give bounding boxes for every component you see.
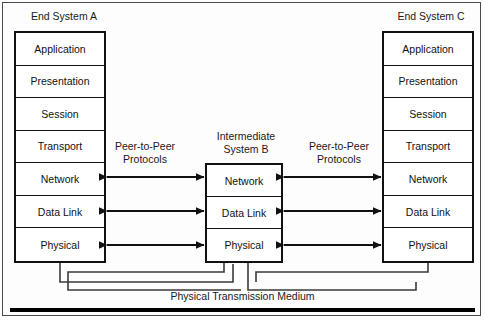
layer-label: Presentation bbox=[31, 75, 90, 87]
layer-label: Data Link bbox=[38, 206, 82, 218]
peer-protocols-left-line2: Protocols bbox=[103, 153, 187, 166]
end-system-a-stack: ApplicationPresentationSessionTransportN… bbox=[14, 31, 106, 263]
peer-protocols-right-line1: Peer-to-Peer bbox=[297, 140, 381, 153]
system-c-layer-application: Application bbox=[384, 33, 472, 66]
intermediate-layer-data-link: Data Link bbox=[207, 197, 281, 229]
system-c-layer-network: Network bbox=[384, 163, 472, 196]
intermediate-system-b-stack: NetworkData LinkPhysical bbox=[205, 163, 283, 263]
system-a-layer-data-link: Data Link bbox=[16, 196, 104, 229]
system-a-layer-physical: Physical bbox=[16, 228, 104, 261]
system-c-layer-data-link: Data Link bbox=[384, 196, 472, 229]
physical-transmission-medium-bus bbox=[10, 308, 475, 312]
layer-label: Session bbox=[409, 108, 446, 120]
layer-label: Network bbox=[41, 173, 80, 185]
system-c-layer-presentation: Presentation bbox=[384, 66, 472, 99]
end-system-a-title: End System A bbox=[14, 10, 114, 23]
intermediate-system-b-title-line1: Intermediate bbox=[201, 130, 291, 143]
layer-label: Data Link bbox=[406, 206, 450, 218]
layer-label: Data Link bbox=[222, 207, 266, 219]
layer-label: Network bbox=[409, 173, 448, 185]
layer-label: Transport bbox=[38, 140, 83, 152]
system-c-layer-session: Session bbox=[384, 98, 472, 131]
system-a-layer-network: Network bbox=[16, 163, 104, 196]
intermediate-layer-physical: Physical bbox=[207, 229, 281, 261]
layer-label: Session bbox=[41, 108, 78, 120]
end-system-c-title: End System C bbox=[381, 10, 481, 23]
layer-label: Physical bbox=[40, 239, 79, 251]
layer-label: Transport bbox=[406, 140, 451, 152]
layer-label: Network bbox=[225, 175, 264, 187]
intermediate-system-b-title-line2: System B bbox=[201, 143, 291, 156]
layer-label: Physical bbox=[408, 239, 447, 251]
physical-transmission-medium-label: Physical Transmission Medium bbox=[0, 290, 485, 302]
layer-label: Application bbox=[402, 43, 453, 55]
system-c-layer-physical: Physical bbox=[384, 228, 472, 261]
system-a-layer-transport: Transport bbox=[16, 131, 104, 164]
system-a-layer-session: Session bbox=[16, 98, 104, 131]
peer-protocols-left-line1: Peer-to-Peer bbox=[103, 140, 187, 153]
peer-protocols-right-line2: Protocols bbox=[297, 153, 381, 166]
layer-label: Application bbox=[34, 43, 85, 55]
system-a-layer-application: Application bbox=[16, 33, 104, 66]
system-a-layer-presentation: Presentation bbox=[16, 66, 104, 99]
layer-label: Physical bbox=[224, 239, 263, 251]
intermediate-layer-network: Network bbox=[207, 165, 281, 197]
end-system-c-stack: ApplicationPresentationSessionTransportN… bbox=[382, 31, 474, 263]
osi-layer-diagram: End System A Intermediate System B End S… bbox=[0, 0, 485, 321]
system-c-layer-transport: Transport bbox=[384, 131, 472, 164]
layer-label: Presentation bbox=[399, 75, 458, 87]
